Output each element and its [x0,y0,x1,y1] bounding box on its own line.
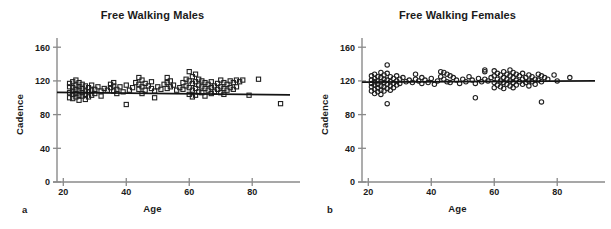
svg-text:40: 40 [40,144,50,154]
svg-text:160: 160 [35,43,50,53]
svg-text:40: 40 [426,187,436,197]
svg-text:80: 80 [40,110,50,120]
panel-females: Free Walking Females Cadence Age b 04080… [305,0,610,229]
svg-text:80: 80 [345,110,355,120]
svg-text:20: 20 [58,187,68,197]
svg-text:60: 60 [184,187,194,197]
figure-container: Free Walking Males Cadence Age a 0408012… [0,0,611,229]
svg-text:40: 40 [121,187,131,197]
svg-text:20: 20 [363,187,373,197]
svg-text:40: 40 [345,144,355,154]
svg-text:120: 120 [35,76,50,86]
panel-males: Free Walking Males Cadence Age a 0408012… [0,0,305,229]
svg-text:120: 120 [340,76,355,86]
scatter-plot-males: 0408012016020406080 [0,0,305,229]
svg-text:0: 0 [350,177,355,187]
svg-text:60: 60 [489,187,499,197]
svg-text:80: 80 [552,187,562,197]
scatter-plot-females: 0408012016020406080 [305,0,610,229]
svg-text:80: 80 [247,187,257,197]
svg-text:160: 160 [340,43,355,53]
svg-text:0: 0 [45,177,50,187]
